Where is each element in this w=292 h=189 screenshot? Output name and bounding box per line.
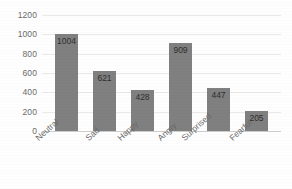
bar-value-label: 621 bbox=[93, 73, 116, 83]
bar-value-label: 428 bbox=[131, 92, 154, 102]
bar-angry: 909 bbox=[169, 43, 192, 131]
y-axis-tick-label: 200 bbox=[3, 108, 37, 117]
plot-area: 1004 621 428 909 447 205 bbox=[42, 15, 281, 131]
bar-chart: 1200 1000 800 600 400 200 0 1004 621 428… bbox=[0, 0, 292, 189]
gridline-1200 bbox=[42, 15, 281, 16]
y-axis-tick-label: 800 bbox=[3, 50, 37, 59]
y-axis-tick-label: 600 bbox=[3, 69, 37, 78]
bar-value-label: 1004 bbox=[55, 36, 78, 46]
y-axis-tick-label: 400 bbox=[3, 88, 37, 97]
bar-surprised: 447 bbox=[207, 88, 230, 131]
y-axis-tick-label: 1200 bbox=[3, 11, 37, 20]
bar-value-label: 447 bbox=[207, 90, 230, 100]
y-axis-tick-label: 0 bbox=[3, 127, 37, 136]
bar-neutral: 1004 bbox=[55, 34, 78, 131]
y-axis-tick-label: 1000 bbox=[3, 30, 37, 39]
bar-value-label: 909 bbox=[169, 45, 192, 55]
bar-sad: 621 bbox=[93, 71, 116, 131]
